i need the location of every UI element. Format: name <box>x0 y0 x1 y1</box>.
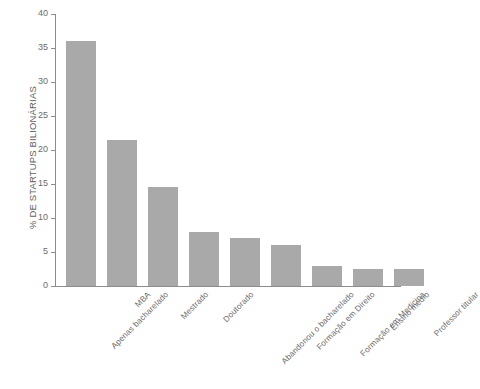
bar <box>107 140 137 286</box>
y-tick-label: 40 <box>38 8 48 19</box>
y-tick-label: 10 <box>38 212 48 223</box>
y-tick-label: 15 <box>38 178 48 189</box>
x-axis-label: Doutorado <box>221 290 255 324</box>
y-tick-label: 35 <box>38 42 48 53</box>
y-tick-label: 5 <box>43 246 48 257</box>
x-axis-label: Formação em Direito <box>315 290 377 352</box>
x-axis-label: Ensino médio <box>389 290 431 332</box>
bar <box>394 269 424 286</box>
bar <box>148 187 178 286</box>
bar <box>271 245 301 286</box>
bar <box>66 41 96 286</box>
x-axis-line <box>55 286 401 287</box>
x-axis-label: Abandonou o bacharelado <box>280 290 356 366</box>
x-axis-label: Apenas bacharelado <box>110 290 171 351</box>
bar <box>353 269 383 286</box>
y-tick-label: 25 <box>38 110 48 121</box>
bar <box>230 238 260 286</box>
x-axis-label: Mestrado <box>179 290 210 321</box>
x-axis-label: Professor titular <box>432 290 480 338</box>
bar <box>189 232 219 286</box>
x-axis-label: MBA <box>133 290 152 309</box>
bar-series <box>56 14 401 286</box>
y-tick-label: 20 <box>38 144 48 155</box>
x-axis-label: Formação em Medicina <box>359 290 427 358</box>
y-tick-label: 0 <box>43 280 48 291</box>
y-tick-label: 30 <box>38 76 48 87</box>
y-axis-title: % DE STARTUPS BILIONÁRIAS <box>27 48 38 268</box>
bar <box>312 266 342 286</box>
